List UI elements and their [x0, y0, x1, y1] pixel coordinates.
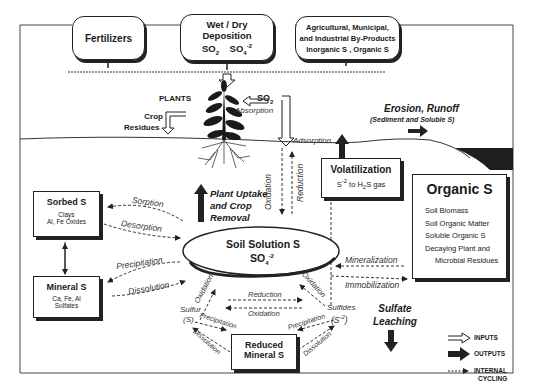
fertilizers-label: Fertilizers [73, 33, 144, 44]
so2-label: SO2 [257, 93, 273, 105]
sulfides-formula: (S-2) [331, 314, 348, 325]
deposition-species: SO2 SO4-2 [181, 43, 273, 56]
legend-inputs: INPUTS [474, 334, 498, 341]
mineral-s-line-2: Sulfates [34, 302, 99, 309]
legend-outputs: OUTPUTS [474, 350, 505, 357]
erosion-title: Erosion, Runoff [384, 103, 459, 114]
organic-s-box: Organic S Soil Biomass Soil Organic Matt… [412, 174, 507, 279]
organic-s-list: Soil Biomass Soil Organic Matter Soluble… [425, 205, 506, 268]
plants-label: PLANTS [159, 94, 191, 103]
mineral-s-title: Mineral S [34, 282, 99, 292]
absorption-label: Absorption [235, 106, 273, 115]
organic-s-item: Soil Organic Matter [425, 218, 506, 231]
organic-s-title: Organic S [413, 181, 506, 197]
volatilization-box: Volatilization S-2 to H2S gas [321, 158, 401, 198]
sorbed-s-line-1: Clays [34, 211, 99, 218]
plant-uptake-label: Plant Uptake and Crop Removal [210, 188, 268, 224]
volatilization-title: Volatilization [322, 164, 400, 175]
legend-internal-2: CYCLING [478, 375, 507, 382]
sulfur-symbol: (S) [183, 315, 194, 324]
reduction-vertical-label: Reduction [295, 164, 305, 202]
soil-solution-title: Soil Solution S [226, 238, 298, 250]
organic-s-item: Decaying Plant and [425, 243, 506, 256]
fertilizers-box: Fertilizers [72, 16, 145, 60]
volatilization-detail: S-2 to H2S gas [322, 178, 400, 190]
sorbed-s-box: Sorbed S Clays Al, Fe Oxides [33, 191, 100, 237]
oxidation-vertical-label: Oxidation [263, 174, 273, 210]
byproducts-line-1: Agricultural, Municipal, [296, 22, 399, 33]
organic-s-item: Microbial Residues [435, 255, 506, 268]
mineralization-label: Mineralization [345, 255, 397, 265]
sulfur-cycle-diagram: Fertilizers Wet / Dry Deposition SO2 SO4… [0, 0, 537, 389]
immobilization-label: Immobilization [345, 280, 399, 290]
byproducts-line-2: and Industrial By-Products [296, 33, 399, 44]
crop-residues-line-2: Residues [124, 123, 160, 132]
reduced-mineral-s-line-2: Mineral S [232, 350, 296, 360]
sorbed-s-title: Sorbed S [34, 197, 99, 207]
reduced-mineral-s-line-1: Reduced [232, 340, 296, 350]
crop-residues-line-1: Crop [143, 112, 163, 121]
byproducts-line-3: Inorganic S , Organic S [296, 44, 399, 55]
sorbed-s-line-2: Al, Fe Oxides [34, 218, 99, 225]
oxidation-label: Oxidation [248, 309, 280, 318]
organic-s-item: Soluble Organic S [425, 230, 506, 243]
sulfur-label: Sulfur [180, 305, 201, 314]
erosion-subtitle: (Sediment and Soluble S) [370, 116, 454, 123]
mineral-s-line-1: Ca, Fe, Al [34, 295, 99, 302]
organic-s-item: Soil Biomass [425, 205, 506, 218]
deposition-title: Wet / Dry Deposition [181, 19, 273, 41]
adsorption-label: Adsorption [293, 136, 331, 145]
deposition-box: Wet / Dry Deposition SO2 SO4-2 [180, 14, 274, 61]
soil-solution-formula: SO4-2 [226, 252, 298, 266]
sulfides-label: Sulfides [327, 303, 355, 312]
roots-icon [198, 140, 250, 168]
legend-internal-1: INTERNAL [474, 367, 507, 374]
sulfate-leaching-label: Sulfate Leaching [373, 302, 417, 328]
byproducts-box: Agricultural, Municipal, and Industrial … [295, 16, 400, 60]
reduced-mineral-s-box: Reduced Mineral S [231, 334, 297, 370]
reduction-label: Reduction [248, 290, 282, 299]
mineral-s-box: Mineral S Ca, Fe, Al Sulfates [33, 276, 100, 318]
